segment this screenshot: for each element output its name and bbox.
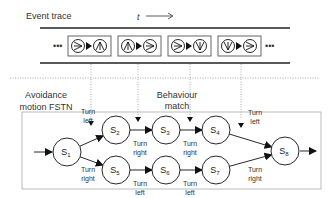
fstn-states: S1S2S3S4S5S6S7S8 — [53, 116, 299, 184]
event-trace-title: Event trace — [26, 11, 72, 21]
ellipsis-right: ••• — [265, 41, 274, 51]
transition-label: Turn — [183, 180, 197, 187]
transition-s1-s5 — [80, 157, 103, 165]
transition-label: Turn — [81, 108, 95, 115]
state-s7: S7 — [202, 156, 230, 184]
transition-label: right — [183, 149, 197, 157]
behaviour-match-line2: match — [165, 101, 190, 111]
transition-s7-s8 — [229, 155, 271, 167]
transition-label: left — [83, 117, 92, 124]
behaviour-match-line1: Behaviour — [157, 90, 198, 100]
state-s1: S1 — [53, 138, 81, 166]
event-box — [218, 36, 261, 56]
transition-label: Turn — [133, 140, 147, 147]
fstn-title-line2: motion FSTN — [19, 102, 72, 112]
transition-s4-s8 — [229, 134, 271, 147]
transition-label: Turn — [81, 166, 95, 173]
transition-label: Turn — [248, 109, 262, 116]
state-s8: S8 — [271, 137, 299, 165]
transition-label: Turn — [133, 180, 147, 187]
ellipsis-left: ••• — [53, 41, 62, 51]
transition-label: left — [250, 118, 259, 125]
match-marker-3-icon — [187, 117, 193, 122]
transition-label: left — [185, 189, 194, 196]
time-label: t — [137, 12, 140, 22]
transition-s1-s2 — [80, 136, 103, 147]
state-s4: S4 — [202, 116, 230, 144]
transition-label: Turn — [248, 166, 262, 173]
transition-label: right — [81, 175, 95, 183]
state-s3: S3 — [152, 116, 180, 144]
event-sequence — [68, 36, 261, 56]
transition-label: right — [133, 149, 147, 157]
match-marker-2-icon — [135, 117, 141, 122]
match-marker-4-icon — [238, 123, 244, 128]
transition-label: right — [248, 175, 262, 183]
diagram-canvas: Event trace t ••• ••• Avoidance motion F… — [0, 0, 329, 198]
state-s6: S6 — [152, 156, 180, 184]
fstn-title-line1: Avoidance — [25, 90, 67, 100]
event-box — [168, 36, 211, 56]
state-s2: S2 — [102, 116, 130, 144]
transition-label: left — [135, 189, 144, 196]
transition-label: Turn — [183, 140, 197, 147]
state-s5: S5 — [102, 156, 130, 184]
event-box — [68, 36, 111, 56]
event-box — [118, 36, 161, 56]
